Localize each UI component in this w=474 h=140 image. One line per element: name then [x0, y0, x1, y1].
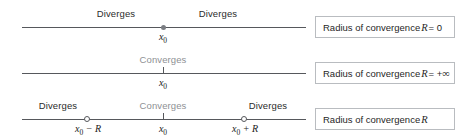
point-marker-x0-plus-r — [241, 116, 247, 122]
point-label-subscript: 0 — [163, 36, 167, 45]
region-label-diverges-right: Diverges — [249, 100, 287, 111]
point-label-x0-plus-r: x0 + R — [232, 123, 258, 137]
region-label-converges: Converges — [140, 54, 187, 65]
number-line-axis — [22, 73, 306, 74]
caption-box-r-infinite: Radius of convergenceR= +∞ — [315, 62, 455, 84]
caption-text-before: Radius of convergence — [323, 22, 420, 33]
radius-of-convergence-figure: Diverges Diverges x0 Radius of convergen… — [0, 0, 474, 140]
caption-text-after: = + — [429, 68, 443, 79]
number-line-axis — [22, 119, 306, 120]
region-label-diverges-left: Diverges — [39, 100, 77, 111]
number-line-row-r-infinite: Converges x0 Radius of convergenceR= +∞ — [0, 46, 474, 92]
point-marker-x0 — [163, 67, 164, 74]
caption-variable-r: R — [420, 114, 428, 125]
point-label-x0: x0 — [159, 77, 167, 91]
infinity-symbol: ∞ — [442, 68, 450, 79]
caption-text-before: Radius of convergence — [323, 68, 420, 79]
point-marker-x0 — [161, 25, 166, 30]
caption-text-before: Radius of convergence — [323, 114, 420, 125]
caption-box-r-finite: Radius of convergenceR — [315, 108, 455, 130]
point-label-subscript: 0 — [163, 128, 167, 137]
caption-box-r-zero: Radius of convergenceR= 0 — [315, 16, 455, 38]
caption-variable-r: R — [420, 22, 428, 33]
region-label-converges: Converges — [140, 100, 187, 111]
point-label-subscript: 0 — [163, 82, 167, 91]
region-label-diverges-right: Diverges — [199, 8, 237, 19]
point-marker-x0 — [163, 113, 164, 120]
region-label-diverges-left: Diverges — [97, 8, 135, 19]
point-label-x0: x0 — [159, 31, 167, 45]
number-line-row-r-finite: Diverges Converges Diverges x0 − R x0 x0… — [0, 92, 474, 138]
point-label-suffix: + R — [240, 123, 258, 134]
point-label-x0: x0 — [159, 123, 167, 137]
point-marker-x0-minus-r — [84, 116, 90, 122]
point-label-x0-minus-r: x0 − R — [75, 123, 101, 137]
point-label-suffix: − R — [83, 123, 101, 134]
caption-text-after: = 0 — [429, 22, 442, 33]
caption-variable-r: R — [420, 68, 428, 79]
number-line-row-r-zero: Diverges Diverges x0 Radius of convergen… — [0, 0, 474, 46]
